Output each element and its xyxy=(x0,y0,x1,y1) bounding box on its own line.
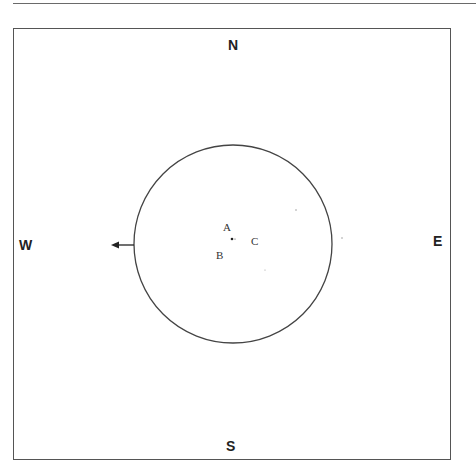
speck xyxy=(264,269,265,270)
boundary-circle xyxy=(134,145,332,343)
point-c-label: C xyxy=(251,236,258,247)
west-arrow-icon xyxy=(111,242,134,249)
west-label: W xyxy=(19,238,32,252)
speck xyxy=(341,237,342,238)
south-label: S xyxy=(226,439,235,453)
point-b-label: B xyxy=(216,250,223,261)
speck xyxy=(295,209,296,210)
north-label: N xyxy=(228,38,238,52)
point-a-label: A xyxy=(223,222,231,233)
east-label: E xyxy=(433,234,442,248)
circle-diagram xyxy=(0,0,476,476)
center-point-speck xyxy=(234,238,235,239)
center-point xyxy=(231,238,234,241)
